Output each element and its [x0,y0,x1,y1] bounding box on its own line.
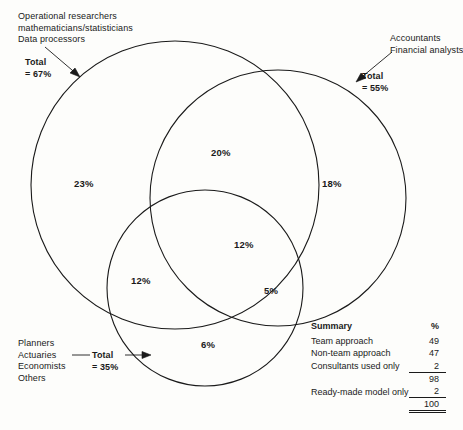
summary-row-name: Ready-made model only [311,385,409,398]
summary-table: Summary % Team approach 49 Non-team appr… [311,320,446,413]
region-label-b-and-c: 5% [264,285,278,296]
summary-row-value: 47 [409,347,446,359]
summary-row: Team approach 49 [311,335,446,347]
summary-row-name: Non-team approach [311,347,409,359]
summary-row-name: Team approach [311,335,409,347]
region-label-b-only: 18% [322,178,342,189]
region-label-c-only: 6% [201,339,215,350]
leader-line-group-c [125,352,151,359]
summary-total-row: 100 [311,398,446,412]
summary-row: Non-team approach 47 [311,347,446,359]
summary-row-name [311,398,409,412]
summary-total-value: 100 [409,398,446,412]
region-label-a-and-b: 20% [211,147,231,158]
summary-row: Ready-made model only 2 [311,385,446,398]
region-label-a-only: 23% [74,178,94,189]
summary-header-row: Summary % [311,320,446,335]
group-b-label: Accountants Financial analysts [390,33,463,56]
group-c-label: Planners Actuaries Economists Others [18,338,66,384]
summary-row-name: Consultants used only [311,360,409,373]
group-a-total-label: Total = 67% [25,57,51,80]
region-label-a-and-c: 12% [131,275,151,286]
summary-row-value: 2 [409,385,446,398]
summary-subtotal-value: 98 [409,372,446,385]
summary-subtotal-row: 98 [311,372,446,385]
group-c-total-label: Total = 35% [92,350,118,373]
group-a-label: Operational researchers mathematicians/s… [18,11,133,46]
region-label-a-and-b-and-c: 12% [234,239,254,250]
summary-unit-heading: % [409,320,446,335]
summary-heading: Summary [311,320,409,335]
summary-row-name [311,372,409,385]
group-b-total-label: Total = 55% [362,71,388,94]
summary-row-value: 2 [409,360,446,373]
summary-row: Consultants used only 2 [311,360,446,373]
summary-row-value: 49 [409,335,446,347]
